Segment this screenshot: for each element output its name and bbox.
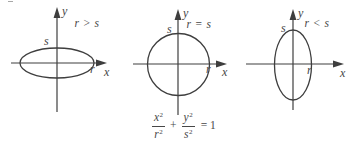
x-intercept-label: r: [90, 62, 95, 76]
denominator-exponent: 2: [159, 128, 163, 136]
y-intercept-label: s: [281, 21, 286, 35]
relation-label: r = s: [187, 18, 212, 30]
denominator: r2: [152, 128, 164, 142]
denominator-exponent: 2: [188, 128, 192, 136]
fraction-y2-over-s2: y2 s2: [182, 111, 195, 141]
x-axis-label: x: [339, 66, 346, 80]
y-axis-label: y: [297, 6, 304, 20]
textbook-figure: y r > s s r x y r = s s r x y r: [0, 0, 356, 153]
equation-rhs: = 1: [199, 120, 216, 132]
fraction-bar: [182, 126, 195, 127]
numerator: y2: [182, 111, 195, 125]
panel-wide-ellipse: y r > s s r x: [11, 4, 110, 112]
y-axis-arrowhead: [175, 9, 182, 20]
ellipse-equation: x2 r2 + y2 s2 = 1: [152, 111, 216, 141]
fraction-x2-over-r2: x2 r2: [152, 111, 165, 141]
numerator-exponent: 2: [189, 111, 193, 119]
y-intercept-label: s: [44, 34, 49, 48]
numerator-base: y: [184, 111, 189, 123]
numerator-exponent: 2: [159, 111, 163, 119]
numerator: x2: [152, 111, 165, 125]
y-axis-arrowhead: [290, 9, 297, 20]
panel-circle: y r = s s r x: [133, 6, 228, 115]
y-intercept-label: s: [167, 22, 172, 36]
x-axis-label: x: [221, 65, 228, 79]
plus-operator: +: [169, 120, 178, 132]
relation-label: r > s: [75, 17, 100, 29]
denominator: s2: [182, 128, 194, 142]
y-axis-label: y: [61, 4, 68, 18]
x-intercept-label: r: [206, 62, 211, 76]
panel-tall-ellipse: y r < s s r x: [246, 6, 346, 110]
x-intercept-label: r: [307, 63, 312, 77]
x-axis-label: x: [103, 65, 110, 79]
y-axis-arrowhead: [54, 7, 61, 18]
fraction-bar: [152, 126, 165, 127]
relation-label: r < s: [305, 17, 330, 29]
